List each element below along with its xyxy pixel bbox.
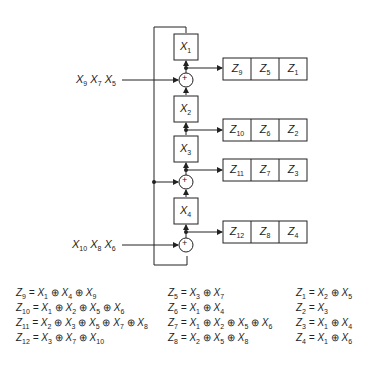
adder-3-symbol: + <box>182 238 187 248</box>
adder-2-symbol: + <box>182 175 187 185</box>
equations-col-2: Z5 = X3 ⊕ X7Z6 = X1 ⊕ X4Z7 = X1 ⊕ X2 ⊕ X… <box>168 287 272 347</box>
equation: Z9 = X1 ⊕ X4 ⊕ X9 <box>16 287 148 302</box>
equation: Z4 = X1 ⊕ X6 <box>296 332 352 347</box>
register-x3-label: X3 <box>180 142 191 156</box>
equation: Z7 = X1 ⊕ X2 ⊕ X5 ⊕ X6 <box>168 317 272 332</box>
register-x4-label: X4 <box>180 204 191 218</box>
register-x1-label: X1 <box>180 40 191 54</box>
register-x2-label: X2 <box>180 102 191 116</box>
equation: Z3 = X1 ⊕ X4 <box>296 317 352 332</box>
equation: Z5 = X3 ⊕ X7 <box>168 287 272 302</box>
equations-col-1: Z9 = X1 ⊕ X4 ⊕ X9Z10 = X1 ⊕ X2 ⊕ X5 ⊕ X6… <box>16 287 148 347</box>
equations-col-3: Z1 = X2 ⊕ X5Z2 = X3Z3 = X1 ⊕ X4Z4 = X1 ⊕… <box>296 287 352 347</box>
input-top-label: X9 X7 X5 <box>76 73 116 87</box>
equation: Z10 = X1 ⊕ X2 ⊕ X5 ⊕ X6 <box>16 302 148 317</box>
equation: Z2 = X3 <box>296 302 352 317</box>
equation: Z8 = X2 ⊕ X5 ⊕ X8 <box>168 332 272 347</box>
equation: Z6 = X1 ⊕ X4 <box>168 302 272 317</box>
equation: Z1 = X2 ⊕ X5 <box>296 287 352 302</box>
equation: Z12 = X3 ⊕ X7 ⊕ X10 <box>16 332 148 347</box>
equation: Z11 = X2 ⊕ X3 ⊕ X5 ⊕ X7 ⊕ X8 <box>16 317 148 332</box>
adder-1-symbol: + <box>182 73 187 83</box>
input-bottom-label: X10 X8 X6 <box>72 238 116 252</box>
